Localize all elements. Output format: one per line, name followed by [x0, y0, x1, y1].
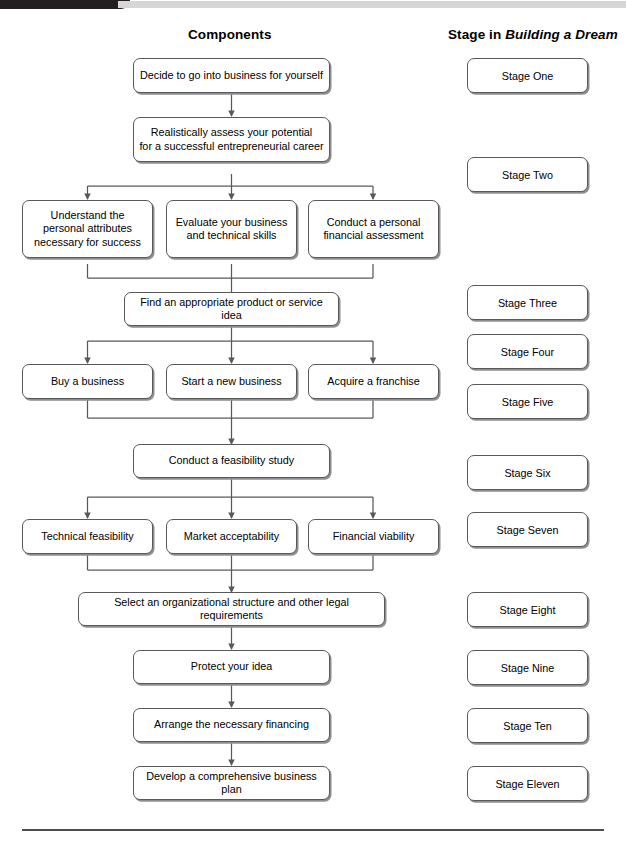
node-text-line2: financial assessment [323, 229, 423, 242]
node-conduct-personal-financial-assessment[interactable]: Conduct a personal financial assessment [308, 200, 439, 258]
components-column-heading: Components [188, 27, 272, 42]
node-text: Arrange the necessary financing [154, 718, 309, 731]
node-text: Buy a business [51, 375, 124, 388]
node-text-line1: Realistically assess your potential [151, 126, 312, 139]
node-text: Find an appropriate product or service i… [130, 296, 333, 323]
node-protect-your-idea[interactable]: Protect your idea [133, 650, 330, 684]
stage-label: Stage Ten [503, 720, 551, 732]
node-text: Decide to go into business for yourself [140, 69, 323, 82]
node-text: Develop a comprehensive business plan [139, 770, 324, 797]
node-text-line2: personal attributes [43, 222, 132, 235]
stage-label: Stage Nine [501, 662, 554, 674]
node-text: Start a new business [181, 375, 281, 388]
node-text: Financial viability [333, 530, 415, 543]
node-evaluate-business-technical-skills[interactable]: Evaluate your business and technical ski… [166, 200, 297, 258]
node-arrange-necessary-financing[interactable]: Arrange the necessary financing [133, 708, 330, 742]
node-develop-comprehensive-business-plan[interactable]: Develop a comprehensive business plan [133, 766, 330, 800]
stage-label: Stage Eight [500, 604, 556, 616]
node-text-line1: Understand the [51, 209, 125, 222]
stage-heading-book-title: Building a Dream [505, 27, 618, 42]
stage-box-six[interactable]: Stage Six [467, 455, 588, 490]
node-realistically-assess-potential[interactable]: Realistically assess your potential for … [133, 117, 330, 162]
stage-box-two[interactable]: Stage Two [467, 157, 588, 192]
node-text-line2: and technical skills [186, 229, 276, 242]
stage-label: Stage Three [498, 297, 557, 309]
node-decide-to-go-into-business[interactable]: Decide to go into business for yourself [133, 58, 330, 93]
stage-label: Stage Six [504, 467, 550, 479]
node-text: Conduct a feasibility study [169, 454, 294, 467]
stage-label: Stage Two [502, 169, 553, 181]
node-start-a-new-business[interactable]: Start a new business [166, 364, 297, 399]
stage-label: Stage One [502, 70, 554, 82]
top-grey-bar-decoration [118, 1, 626, 8]
node-buy-a-business[interactable]: Buy a business [22, 364, 153, 399]
stage-label: Stage Eleven [495, 778, 559, 790]
node-market-acceptability[interactable]: Market acceptability [166, 519, 297, 554]
stage-heading-prefix: Stage in [448, 27, 505, 42]
stage-box-one[interactable]: Stage One [467, 58, 588, 93]
node-understand-personal-attributes[interactable]: Understand the personal attributes neces… [22, 200, 153, 258]
node-technical-feasibility[interactable]: Technical feasibility [22, 519, 153, 554]
node-text: Technical feasibility [41, 530, 133, 543]
stage-box-four[interactable]: Stage Four [467, 334, 588, 369]
stage-column-heading: Stage in Building a Dream [448, 27, 618, 42]
stage-box-five[interactable]: Stage Five [467, 384, 588, 419]
stage-box-ten[interactable]: Stage Ten [467, 708, 588, 743]
node-select-organizational-structure[interactable]: Select an organizational structure and o… [78, 592, 385, 626]
flowchart-page: Components Stage in Building a Dream [0, 0, 626, 843]
node-conduct-feasibility-study[interactable]: Conduct a feasibility study [133, 444, 330, 478]
node-text: Select an organizational structure and o… [84, 596, 379, 623]
top-dark-bar-decoration [0, 0, 130, 9]
node-acquire-a-franchise[interactable]: Acquire a franchise [308, 364, 439, 399]
footer-divider-rule [22, 829, 604, 831]
node-text-line1: Evaluate your business [176, 216, 288, 229]
node-text-line1: Conduct a personal [327, 216, 421, 229]
stage-box-eight[interactable]: Stage Eight [467, 592, 588, 627]
node-find-appropriate-product-idea[interactable]: Find an appropriate product or service i… [124, 292, 339, 326]
stage-box-eleven[interactable]: Stage Eleven [467, 766, 588, 801]
stage-label: Stage Four [501, 346, 554, 358]
node-financial-viability[interactable]: Financial viability [308, 519, 439, 554]
node-text: Market acceptability [184, 530, 279, 543]
stage-label: Stage Seven [497, 524, 559, 536]
stage-box-three[interactable]: Stage Three [467, 285, 588, 320]
stage-box-seven[interactable]: Stage Seven [467, 512, 588, 547]
stage-label: Stage Five [502, 396, 554, 408]
node-text: Protect your idea [191, 660, 273, 673]
node-text: Acquire a franchise [327, 375, 419, 388]
stage-box-nine[interactable]: Stage Nine [467, 650, 588, 685]
node-text-line3: necessary for success [34, 236, 141, 249]
node-text-line2: for a successful entrepreneurial career [139, 140, 323, 153]
